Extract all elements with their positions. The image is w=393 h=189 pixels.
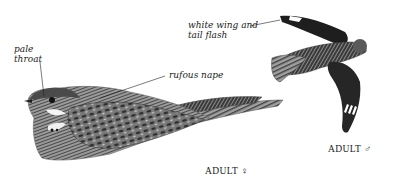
label-pale-throat-line2: throat <box>14 54 42 64</box>
caption-adult-male: ADULT ♂ <box>328 144 371 154</box>
label-rufous-nape: rufous nape <box>169 70 223 80</box>
label-pale-throat: pale throat <box>14 44 42 64</box>
label-rufous-nape-line1: rufous nape <box>169 70 223 80</box>
label-wing-flash-line2: tail flash <box>188 30 227 40</box>
nightjar-illustration-plate: pale throat rufous nape white wing and t… <box>0 0 393 189</box>
label-wing-flash-line1: white wing and <box>188 20 258 30</box>
label-white-wing-tail-flash: white wing and tail flash <box>188 20 258 40</box>
adult-male-nightjar <box>271 16 367 133</box>
label-pale-throat-line1: pale <box>14 44 33 54</box>
caption-adult-female: ADULT ♀ <box>205 166 248 176</box>
adult-female-nightjar <box>24 86 283 160</box>
